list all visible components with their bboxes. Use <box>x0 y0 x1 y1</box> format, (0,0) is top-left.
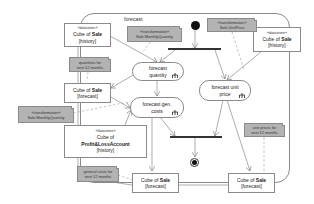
rake-icon <box>239 93 245 98</box>
object-state: [forecast] <box>241 183 262 189</box>
object-state: [history] <box>79 38 97 44</box>
activity-label: forecast <box>124 16 142 22</box>
object-state: [history] <box>268 42 286 48</box>
object-sale-forecast-mid[interactable]: Cube of Sale [forecast] <box>132 173 179 193</box>
object-state: [forecast] <box>77 93 98 99</box>
note-text: Sale.UnitPrice <box>220 25 245 30</box>
note-text-2: next 12 months <box>251 130 278 135</box>
datastore-sale-history-right[interactable]: «datastore» Cube of Sale [history] <box>253 27 301 52</box>
object-sale-forecast-right[interactable]: Cube of Sale [forecast] <box>228 173 275 193</box>
join-bar[interactable] <box>170 136 222 138</box>
action-label-2: quantity <box>149 72 167 78</box>
note-text: Sale.MonthlyQuantity <box>136 34 173 39</box>
object-sale-forecast-left[interactable]: Cube of Sale [forecast] <box>64 83 111 103</box>
note-general-costs[interactable]: general costs for next 12 months <box>77 166 119 182</box>
note-unit-prices[interactable]: unit prices for next 12 months <box>244 123 285 137</box>
datastore-profit-loss-history[interactable]: «datastore» Cube of Profit&LossAccount [… <box>64 125 147 158</box>
note-text-2: next 12 months <box>85 174 112 179</box>
action-forecast-gen-costs[interactable]: forecast gen. costs <box>130 97 184 118</box>
note-transformation-unit-price[interactable]: «transformation» Sale.UnitPrice <box>207 18 257 32</box>
note-text-2: next 12 months <box>77 65 104 70</box>
object-state: [forecast] <box>145 183 166 189</box>
action-label-2: price <box>220 91 231 97</box>
action-forecast-unit-price[interactable]: forecast unit price <box>199 80 251 101</box>
rake-icon <box>172 73 178 78</box>
initial-node[interactable] <box>191 21 200 30</box>
action-forecast-quantity[interactable]: forecast quantity <box>132 62 184 81</box>
rake-icon <box>172 110 178 115</box>
final-node[interactable] <box>190 158 199 167</box>
object-state: [history] <box>97 147 115 153</box>
action-label-2: costs <box>151 108 163 114</box>
note-quantities[interactable]: quantities for next 12 months <box>69 57 111 72</box>
fork-bar[interactable] <box>168 48 221 50</box>
note-transformation-monthly-quantity-left[interactable]: «transformation» Sale.MonthlyQuantity <box>18 106 74 123</box>
note-text: Sale.MonthlyQuantity <box>28 115 65 120</box>
note-transformation-monthly-quantity-top[interactable]: «transformation» Sale.MonthlyQuantity <box>127 26 182 42</box>
datastore-sale-history-left[interactable]: «datastore» Cube of Sale [history] <box>64 23 111 47</box>
